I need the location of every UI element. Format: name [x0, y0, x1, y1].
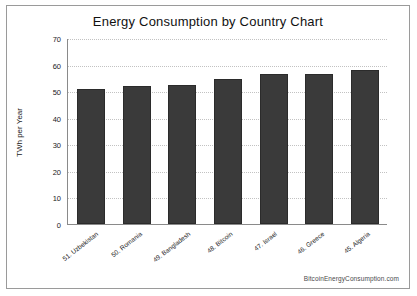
- bar: [351, 70, 379, 224]
- bar: [260, 74, 288, 224]
- gridline: [68, 39, 387, 40]
- bar: [168, 85, 196, 225]
- y-axis-tick-label: 10: [39, 194, 61, 203]
- bar: [214, 79, 242, 224]
- y-axis-tick-label: 70: [39, 35, 61, 44]
- chart-title: Energy Consumption by Country Chart: [7, 14, 409, 29]
- y-axis-tick-label: 30: [39, 141, 61, 150]
- plot-area: [67, 39, 387, 225]
- y-axis-tick-label: 60: [39, 61, 61, 70]
- x-axis-tick-label: 47. Israel: [253, 230, 278, 252]
- bar: [123, 86, 151, 224]
- x-axis-tick-label: 48. Bitcoin: [206, 230, 234, 254]
- bar: [305, 74, 333, 224]
- watermark-label: BitcoinEnergyConsumption.com: [304, 275, 399, 282]
- x-axis-tick-label: 50. Romania: [110, 230, 143, 258]
- x-axis-tick-label: 46. Greece: [296, 230, 326, 255]
- chart-container: Energy Consumption by Country Chart TWh …: [6, 5, 410, 289]
- y-axis-tick-label: 40: [39, 114, 61, 123]
- x-axis-tick-label: 51. Uzbekistan: [61, 230, 99, 262]
- y-axis-title: TWh per Year: [13, 39, 25, 225]
- y-axis-tick-label: 50: [39, 88, 61, 97]
- y-axis-tick-label: 0: [39, 221, 61, 230]
- x-axis-tick-label: 49. Bangladesh: [151, 230, 191, 263]
- y-axis-tick-label: 20: [39, 167, 61, 176]
- bar: [77, 89, 105, 225]
- x-axis-tick-label: 45. Algeria: [342, 230, 371, 254]
- y-axis-title-label: TWh per Year: [15, 108, 24, 157]
- gridline: [68, 66, 387, 67]
